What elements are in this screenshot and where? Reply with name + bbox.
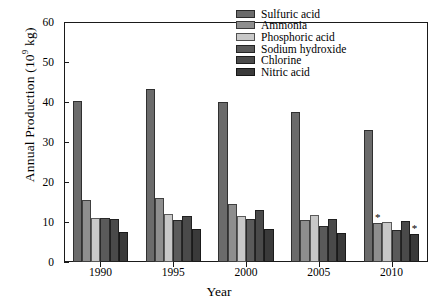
x-tick-mark <box>392 262 393 267</box>
legend-item: Sulfuric acid <box>236 8 346 20</box>
x-tick-mark <box>100 262 101 267</box>
y-axis-title: Annual Production (109 kg) <box>20 0 38 230</box>
legend-item: Ammonia <box>236 20 346 32</box>
y-tick-label: 10 <box>14 216 54 228</box>
bar <box>164 214 173 262</box>
y-tick-label: 30 <box>14 136 54 148</box>
bar-annotation-asterisk: * <box>375 212 381 223</box>
y-tick-label: 60 <box>14 16 54 28</box>
chart-figure: Annual Production (109 kg) 0102030405060… <box>0 0 438 306</box>
bar <box>73 101 82 262</box>
bar <box>382 222 391 262</box>
bar-annotation-asterisk: * <box>412 223 418 234</box>
y-tick-label: 50 <box>14 56 54 68</box>
bar <box>392 230 401 262</box>
legend-label: Sulfuric acid <box>261 8 320 20</box>
y-axis-title-suffix: kg) <box>22 27 37 49</box>
x-tick-label: 1995 <box>143 266 203 278</box>
bar <box>337 233 346 262</box>
legend-label: Phosphoric acid <box>261 31 335 43</box>
bar <box>218 102 227 262</box>
legend-swatch <box>236 45 255 53</box>
bar <box>364 130 373 262</box>
legend-item: Nitric acid <box>236 66 346 78</box>
bar <box>173 220 182 262</box>
bar <box>192 229 201 262</box>
legend-item: Phosphoric acid <box>236 31 346 43</box>
x-tick-label: 2010 <box>362 266 422 278</box>
y-tick-label: 40 <box>14 96 54 108</box>
legend-label: Ammonia <box>261 19 307 31</box>
legend-item: Sodium hydroxide <box>236 43 346 55</box>
bar <box>246 219 255 262</box>
x-tick-mark <box>246 262 247 267</box>
bar <box>264 229 273 262</box>
bar <box>319 226 328 262</box>
x-tick-label: 2005 <box>289 266 349 278</box>
legend-swatch <box>236 10 255 18</box>
legend-item: Chlorine <box>236 54 346 66</box>
bar <box>300 220 309 262</box>
bar <box>373 223 382 262</box>
x-tick-mark <box>173 262 174 267</box>
legend-swatch <box>236 33 255 41</box>
y-tick-mark <box>64 262 69 263</box>
x-axis-title: Year <box>0 284 438 300</box>
bar <box>237 216 246 262</box>
bar <box>401 221 410 262</box>
x-tick-label: 1990 <box>70 266 130 278</box>
y-axis-title-prefix: Annual Production (10 <box>22 54 37 182</box>
bar <box>310 215 319 262</box>
legend-label: Chlorine <box>261 54 301 66</box>
bar <box>82 200 91 262</box>
bar <box>228 204 237 262</box>
bar <box>119 232 128 262</box>
bar <box>255 210 264 262</box>
bar <box>91 218 100 262</box>
bar <box>100 218 109 262</box>
x-tick-label: 2000 <box>216 266 276 278</box>
bar <box>328 219 337 262</box>
legend-swatch <box>236 68 255 76</box>
legend-swatch <box>236 56 255 64</box>
bar <box>155 198 164 262</box>
chart-legend: Sulfuric acidAmmoniaPhosphoric acidSodiu… <box>232 6 350 80</box>
bar <box>291 112 300 262</box>
bar <box>110 219 119 262</box>
y-tick-label: 20 <box>14 176 54 188</box>
y-tick-label: 0 <box>14 256 54 268</box>
legend-swatch <box>236 21 255 29</box>
legend-label: Nitric acid <box>261 66 310 78</box>
x-tick-mark <box>319 262 320 267</box>
y-axis-title-exponent: 9 <box>20 50 30 55</box>
bar <box>182 216 191 262</box>
bar <box>410 234 419 262</box>
legend-label: Sodium hydroxide <box>261 43 346 55</box>
bar <box>146 89 155 262</box>
